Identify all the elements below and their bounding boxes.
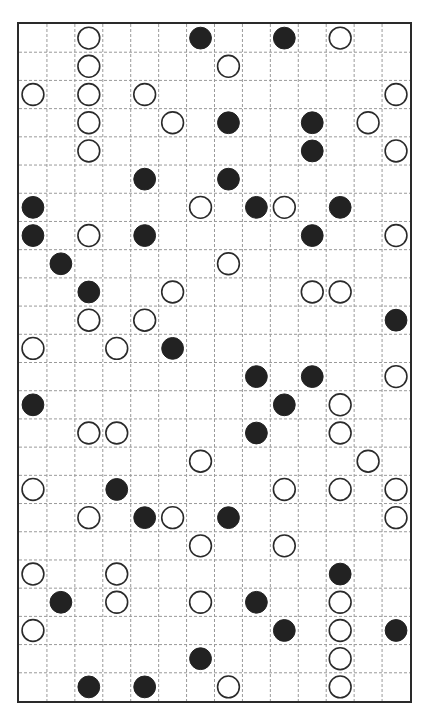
board-cell[interactable] — [326, 221, 354, 249]
board-cell[interactable] — [159, 391, 187, 419]
board-cell[interactable] — [270, 306, 298, 334]
board-cell[interactable] — [242, 673, 270, 701]
board-cell[interactable] — [131, 363, 159, 391]
board-cell[interactable] — [270, 52, 298, 80]
board-cell[interactable] — [354, 137, 382, 165]
board-cell[interactable] — [19, 52, 47, 80]
board-cell[interactable] — [326, 363, 354, 391]
board-cell[interactable] — [382, 52, 410, 80]
board-cell[interactable] — [103, 532, 131, 560]
board-cell[interactable] — [19, 447, 47, 475]
board-cell[interactable] — [215, 306, 243, 334]
board-cell[interactable] — [103, 24, 131, 52]
board-cell[interactable] — [19, 165, 47, 193]
board-cell[interactable] — [75, 645, 103, 673]
board-cell[interactable] — [270, 504, 298, 532]
board-cell[interactable] — [75, 560, 103, 588]
board-cell[interactable] — [131, 532, 159, 560]
board-cell[interactable] — [131, 52, 159, 80]
board-cell[interactable] — [131, 391, 159, 419]
board-cell[interactable] — [215, 363, 243, 391]
board-cell[interactable] — [47, 24, 75, 52]
board-cell[interactable] — [159, 419, 187, 447]
board-cell[interactable] — [215, 532, 243, 560]
board-cell[interactable] — [326, 52, 354, 80]
board-cell[interactable] — [382, 673, 410, 701]
board-cell[interactable] — [270, 334, 298, 362]
board-cell[interactable] — [298, 52, 326, 80]
board-cell[interactable] — [159, 616, 187, 644]
board-cell[interactable] — [47, 475, 75, 503]
board-cell[interactable] — [75, 447, 103, 475]
board-cell[interactable] — [103, 391, 131, 419]
board-cell[interactable] — [326, 334, 354, 362]
board-cell[interactable] — [75, 193, 103, 221]
board-cell[interactable] — [326, 80, 354, 108]
board-cell[interactable] — [131, 137, 159, 165]
board-cell[interactable] — [382, 193, 410, 221]
board-cell[interactable] — [382, 419, 410, 447]
board-cell[interactable] — [242, 24, 270, 52]
board-cell[interactable] — [242, 80, 270, 108]
board-cell[interactable] — [159, 165, 187, 193]
board-cell[interactable] — [47, 560, 75, 588]
board-cell[interactable] — [242, 165, 270, 193]
board-cell[interactable] — [47, 532, 75, 560]
board-cell[interactable] — [75, 391, 103, 419]
board-cell[interactable] — [382, 588, 410, 616]
board-cell[interactable] — [47, 504, 75, 532]
board-cell[interactable] — [159, 52, 187, 80]
board-cell[interactable] — [19, 278, 47, 306]
board-cell[interactable] — [270, 278, 298, 306]
board-cell[interactable] — [187, 419, 215, 447]
board-cell[interactable] — [382, 278, 410, 306]
board-cell[interactable] — [298, 588, 326, 616]
board-cell[interactable] — [75, 363, 103, 391]
board-cell[interactable] — [187, 250, 215, 278]
board-cell[interactable] — [187, 560, 215, 588]
board-cell[interactable] — [215, 278, 243, 306]
board-cell[interactable] — [270, 137, 298, 165]
board-cell[interactable] — [47, 419, 75, 447]
board-cell[interactable] — [103, 447, 131, 475]
board-cell[interactable] — [298, 673, 326, 701]
board-cell[interactable] — [131, 278, 159, 306]
board-cell[interactable] — [159, 80, 187, 108]
board-cell[interactable] — [270, 645, 298, 673]
board-cell[interactable] — [354, 165, 382, 193]
board-cell[interactable] — [159, 137, 187, 165]
board-cell[interactable] — [215, 645, 243, 673]
board-cell[interactable] — [131, 588, 159, 616]
board-cell[interactable] — [159, 447, 187, 475]
board-cell[interactable] — [47, 334, 75, 362]
board-cell[interactable] — [47, 80, 75, 108]
board-cell[interactable] — [187, 137, 215, 165]
board-cell[interactable] — [215, 193, 243, 221]
board-cell[interactable] — [298, 504, 326, 532]
board-cell[interactable] — [103, 109, 131, 137]
board-cell[interactable] — [242, 221, 270, 249]
board-cell[interactable] — [131, 109, 159, 137]
board-cell[interactable] — [242, 250, 270, 278]
board-cell[interactable] — [242, 645, 270, 673]
board-cell[interactable] — [159, 673, 187, 701]
board-cell[interactable] — [187, 504, 215, 532]
board-cell[interactable] — [298, 306, 326, 334]
board-cell[interactable] — [242, 616, 270, 644]
board-cell[interactable] — [298, 532, 326, 560]
board-cell[interactable] — [242, 278, 270, 306]
board-cell[interactable] — [215, 391, 243, 419]
board-cell[interactable] — [187, 391, 215, 419]
board-cell[interactable] — [159, 588, 187, 616]
board-cell[interactable] — [131, 616, 159, 644]
board-cell[interactable] — [270, 109, 298, 137]
board-cell[interactable] — [270, 363, 298, 391]
board-cell[interactable] — [354, 52, 382, 80]
board-cell[interactable] — [382, 391, 410, 419]
board-cell[interactable] — [103, 504, 131, 532]
board-cell[interactable] — [215, 334, 243, 362]
board-cell[interactable] — [298, 193, 326, 221]
board-cell[interactable] — [103, 645, 131, 673]
board-cell[interactable] — [47, 616, 75, 644]
board-cell[interactable] — [242, 306, 270, 334]
